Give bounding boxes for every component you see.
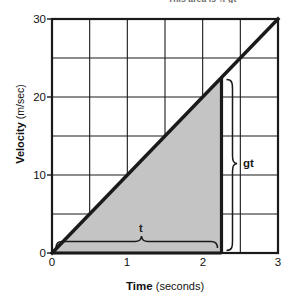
x-tick-label: 1 — [117, 256, 137, 268]
x-tick-label: 3 — [268, 256, 288, 268]
x-tick-label: 0 — [42, 256, 62, 268]
x-tick-labels: 0 1 2 3 — [0, 256, 290, 272]
x-axis-title: Time (seconds) — [52, 280, 278, 292]
x-tick-label: 2 — [193, 256, 213, 268]
velocity-time-chart: This area is ½ gt² Velocity (m/sec) 30 2… — [0, 0, 290, 303]
x-axis-title-bold: Time — [126, 280, 153, 292]
brace-label-t: t — [139, 222, 143, 234]
x-axis-title-unit: (seconds) — [156, 280, 204, 292]
brace-label-gt: gt — [243, 157, 254, 169]
vertical-brace-gt — [227, 80, 238, 251]
